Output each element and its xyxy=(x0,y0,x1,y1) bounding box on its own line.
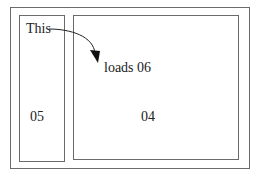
curved-arrow-icon xyxy=(0,0,262,175)
